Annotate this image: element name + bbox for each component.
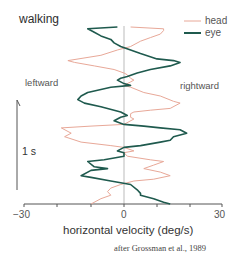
x-tick-0: 0 (121, 209, 127, 220)
head-trace (61, 27, 180, 204)
time-scale-arrow (17, 100, 20, 190)
x-axis-label: horizontal velocity (deg/s) (63, 224, 193, 236)
source-credit: after Grossman et al., 1989 (114, 243, 206, 253)
leftward-label: leftward (25, 77, 58, 88)
rightward-label: rightward (180, 80, 219, 91)
chart-title: walking (19, 12, 59, 26)
legend-eye-label: eye (205, 27, 221, 38)
x-tick-30: 30 (214, 209, 225, 220)
x-axis (24, 204, 222, 207)
time-scale-label: 1 s (22, 145, 36, 157)
legend-head-label: head (205, 15, 227, 26)
x-tick-neg30: −30 (13, 209, 30, 220)
eye-trace (78, 27, 187, 204)
